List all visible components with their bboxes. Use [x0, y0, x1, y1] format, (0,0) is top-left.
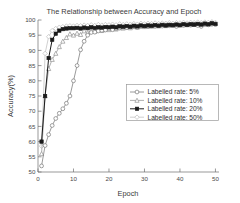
data-point-marker — [185, 23, 188, 26]
data-point-marker — [79, 48, 83, 52]
legend-label: Labelled rate: 50% — [148, 114, 203, 121]
data-point-marker — [175, 23, 178, 26]
data-point-marker — [129, 25, 132, 28]
data-point-marker — [107, 26, 110, 29]
data-point-marker — [50, 124, 54, 128]
data-point-marker — [125, 24, 128, 27]
data-point-marker — [136, 25, 139, 28]
data-point-marker — [68, 27, 71, 30]
x-tick-label: 50 — [212, 175, 219, 182]
y-tick-label: 85 — [29, 62, 36, 69]
data-point-marker — [203, 22, 206, 25]
data-point-marker — [121, 25, 124, 28]
data-point-marker — [114, 26, 117, 29]
data-point-marker — [168, 23, 171, 26]
data-point-marker — [164, 24, 167, 27]
data-point-marker — [93, 26, 96, 29]
chart-figure: The Relationship between Accuracy and Ep… — [0, 0, 240, 203]
data-point-marker — [146, 24, 149, 27]
data-point-marker — [79, 27, 82, 30]
x-tick-label: 20 — [106, 175, 113, 182]
x-tick-label: 30 — [141, 175, 148, 182]
data-point-marker — [135, 107, 138, 110]
data-point-marker — [54, 117, 58, 121]
legend: Labelled rate: 5%Labelled rate: 10%Label… — [127, 85, 219, 121]
data-point-marker — [210, 22, 213, 25]
data-point-marker — [200, 23, 203, 26]
x-axis-title: Epoch — [118, 189, 139, 198]
data-point-marker — [54, 32, 57, 35]
data-point-marker — [40, 164, 44, 168]
data-point-marker — [118, 25, 121, 28]
data-point-marker — [96, 29, 100, 33]
y-tick-label: 60 — [29, 138, 36, 145]
data-point-marker — [178, 23, 181, 26]
x-tick-label: 0 — [36, 175, 40, 182]
data-point-marker — [61, 27, 64, 30]
data-point-marker — [64, 101, 68, 105]
y-tick-label: 90 — [29, 47, 36, 54]
data-point-marker — [139, 24, 142, 27]
data-point-marker — [192, 23, 195, 26]
data-point-marker — [161, 23, 164, 26]
data-point-marker — [50, 38, 53, 41]
legend-label: Labelled rate: 5% — [148, 88, 199, 95]
data-point-marker — [47, 56, 50, 59]
legend-label: Labelled rate: 10% — [148, 97, 203, 104]
data-point-marker — [189, 23, 192, 26]
data-point-marker — [104, 25, 107, 28]
data-point-marker — [68, 94, 72, 98]
y-tick-label: 75 — [29, 92, 36, 99]
data-point-marker — [72, 27, 75, 30]
y-axis-title: Accuracy(%) — [6, 75, 15, 117]
y-tick-label: 50 — [29, 168, 36, 175]
legend-label: Labelled rate: 20% — [148, 105, 203, 112]
data-point-marker — [150, 24, 153, 27]
data-point-marker — [143, 24, 146, 27]
data-point-marker — [72, 79, 76, 83]
data-point-marker — [40, 140, 43, 143]
data-point-marker — [153, 23, 156, 26]
data-point-marker — [75, 64, 79, 68]
data-point-marker — [135, 90, 139, 94]
data-point-marker — [207, 23, 210, 26]
data-point-marker — [132, 24, 135, 27]
y-tick-label: 95 — [29, 31, 36, 38]
data-point-marker — [58, 29, 61, 32]
data-point-marker — [43, 94, 46, 97]
data-point-marker — [61, 107, 65, 111]
data-point-marker — [75, 26, 78, 29]
data-point-marker — [86, 27, 89, 30]
data-point-marker — [214, 22, 217, 25]
data-point-marker — [43, 144, 47, 148]
x-tick-label: 10 — [70, 175, 77, 182]
y-tick-label: 80 — [29, 77, 36, 84]
data-point-marker — [157, 24, 160, 27]
data-point-marker — [196, 22, 199, 25]
data-point-marker — [100, 26, 103, 29]
data-point-marker — [97, 26, 100, 29]
data-point-marker — [57, 111, 61, 115]
data-point-marker — [182, 23, 185, 26]
data-point-marker — [111, 25, 114, 28]
data-point-marker — [47, 133, 51, 137]
y-tick-label: 70 — [29, 107, 36, 114]
data-point-marker — [86, 33, 90, 37]
y-tick-label: 65 — [29, 123, 36, 130]
data-point-marker — [65, 27, 68, 30]
data-point-marker — [82, 39, 86, 43]
accuracy-epoch-line-chart: The Relationship between Accuracy and Ep… — [0, 0, 240, 203]
y-tick-label: 100 — [25, 16, 36, 23]
data-point-marker — [90, 26, 93, 29]
data-point-marker — [171, 23, 174, 26]
x-tick-label: 40 — [177, 175, 184, 182]
data-point-marker — [82, 26, 85, 29]
y-tick-label: 55 — [29, 153, 36, 160]
chart-title: The Relationship between Accuracy and Ep… — [47, 7, 202, 16]
